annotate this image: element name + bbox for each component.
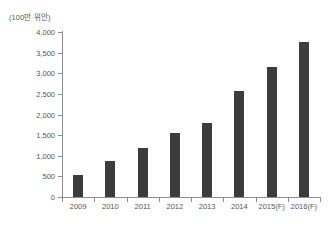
bar-2012 xyxy=(170,133,180,197)
y-axis-tick-label: 1,500 xyxy=(36,131,55,140)
x-axis-tick-label: 2012 xyxy=(159,202,191,211)
bar-2016(F) xyxy=(299,42,309,197)
x-axis-tick-label: 2013 xyxy=(191,202,223,211)
y-axis-tick-label: 0 xyxy=(51,193,55,202)
bar-slot xyxy=(62,32,94,197)
bar-2010 xyxy=(105,161,115,197)
x-axis-tick-label: 2009 xyxy=(62,202,94,211)
bar-slot xyxy=(94,32,126,197)
bar-2014 xyxy=(234,91,244,197)
x-axis-tick-label: 2014 xyxy=(223,202,255,211)
x-axis-tick-label: 2015(F) xyxy=(256,202,288,211)
y-axis-tick-label: 3,500 xyxy=(36,48,55,57)
plot-area: 05001,0001,5002,0002,5003,0003,5004,000 xyxy=(62,32,320,197)
bar-slot xyxy=(191,32,223,197)
y-axis-tick-label: 3,000 xyxy=(36,69,55,78)
bar-2009 xyxy=(73,175,83,197)
bar-slot xyxy=(127,32,159,197)
x-axis-tick-label: 2010 xyxy=(94,202,126,211)
y-axis-unit-label: (100만 위안) xyxy=(9,11,51,22)
y-axis-tick-label: 1,000 xyxy=(36,151,55,160)
bar-chart: (100만 위안) 05001,0001,5002,0002,5003,0003… xyxy=(0,0,331,225)
y-axis-tick-label: 4,000 xyxy=(36,28,55,37)
y-axis-tick-label: 500 xyxy=(42,172,55,181)
bar-slot xyxy=(159,32,191,197)
x-axis-labels: 2009201020112012201320142015(F)2016(F) xyxy=(62,202,320,211)
x-axis-tick-mark xyxy=(320,197,321,202)
bar-series xyxy=(62,32,320,197)
bar-slot xyxy=(256,32,288,197)
y-axis-tick-label: 2,000 xyxy=(36,110,55,119)
bar-2011 xyxy=(138,148,148,197)
bar-2015(F) xyxy=(267,67,277,197)
y-axis-tick-label: 2,500 xyxy=(36,89,55,98)
bar-slot xyxy=(223,32,255,197)
bar-slot xyxy=(288,32,320,197)
x-axis-tick-label: 2016(F) xyxy=(288,202,320,211)
bar-2013 xyxy=(202,123,212,197)
x-axis-tick-label: 2011 xyxy=(127,202,159,211)
